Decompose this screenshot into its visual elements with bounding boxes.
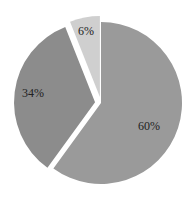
pie-chart: 60% 34% 6%: [0, 0, 194, 198]
slice-label-6: 6%: [78, 24, 94, 38]
pie-slices: [14, 16, 182, 184]
slice-label-60: 60%: [138, 119, 160, 133]
slice-label-34: 34%: [22, 86, 44, 100]
